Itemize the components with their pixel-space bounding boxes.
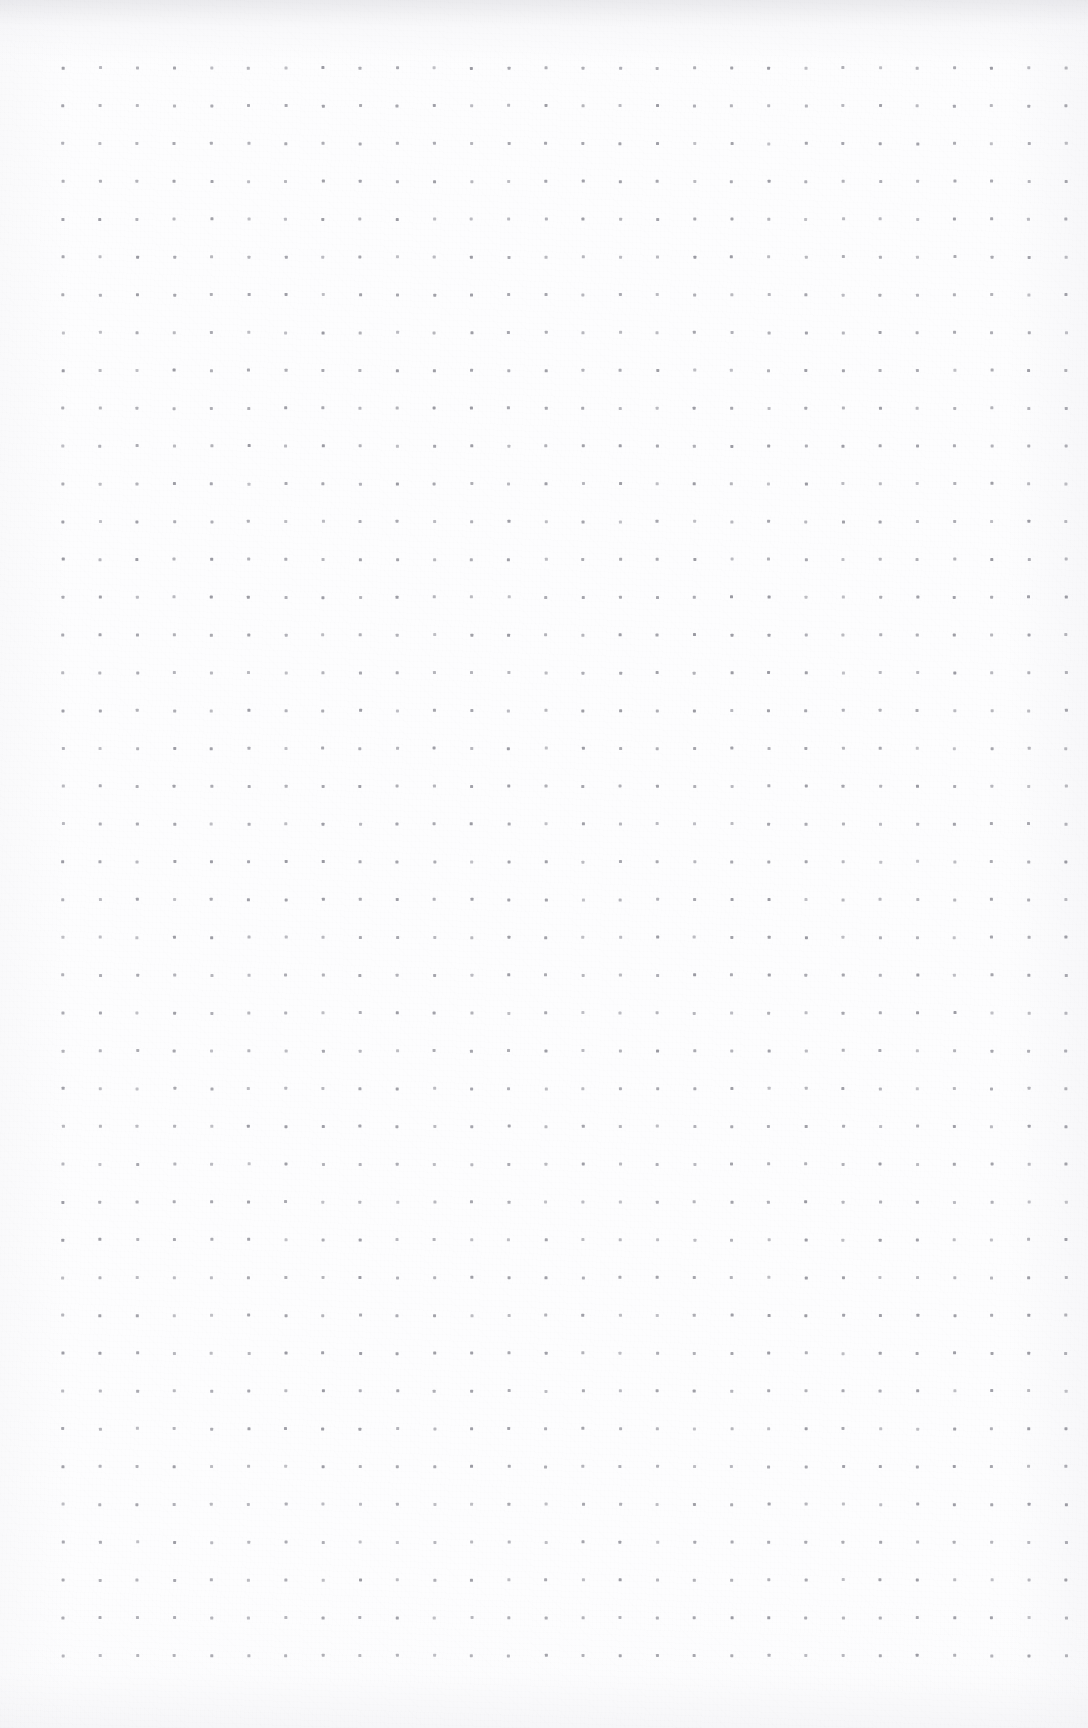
- notebook-page: [0, 0, 1088, 1728]
- page-content-area: [0, 0, 1088, 1728]
